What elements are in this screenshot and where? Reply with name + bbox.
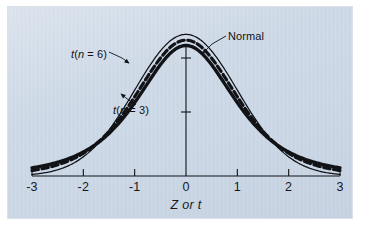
x-tick-label-4: 1	[222, 180, 252, 194]
x-axis-title: Z or t	[126, 198, 246, 212]
t6-n-symbol: n	[78, 48, 84, 60]
callout-lines	[109, 36, 226, 105]
curve-label-normal: Normal	[228, 30, 264, 42]
x-tick-label-1: -2	[68, 180, 98, 194]
figure-container: -3-2-10123 Z or t Normal t(n = 6) t(n = …	[0, 0, 372, 236]
t3-n-symbol: n	[120, 104, 126, 116]
x-tick-label-2: -1	[120, 180, 150, 194]
x-tick-label-3: 0	[171, 180, 201, 194]
x-tick-label-5: 2	[274, 180, 304, 194]
t3-symbol: t	[113, 104, 116, 116]
curve-label-t3: t(n = 3)	[113, 104, 149, 116]
arrowhead-t6	[124, 59, 129, 64]
x-tick-label-0: -3	[17, 180, 47, 194]
curve-label-t6: t(n = 6)	[71, 48, 107, 60]
t6-symbol: t	[71, 48, 74, 60]
x-tick-label-6: 3	[325, 180, 355, 194]
